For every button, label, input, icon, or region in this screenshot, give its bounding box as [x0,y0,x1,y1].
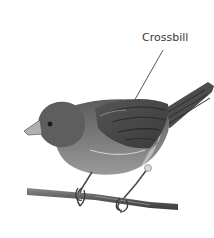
branch [27,188,178,210]
eye [48,122,53,127]
illustration-canvas: Crossbill [0,0,214,238]
leader-line [133,50,163,103]
crossbill-label: Crossbill [142,31,188,44]
bird-head [38,102,85,148]
beak [24,120,42,135]
